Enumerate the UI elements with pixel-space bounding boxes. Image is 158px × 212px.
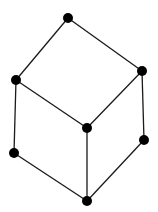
edge-top-left-upper: [16, 18, 68, 80]
hasse-diagram: [0, 0, 158, 212]
node-left-upper: [11, 75, 21, 85]
edge-right-lower-bottom: [87, 140, 144, 201]
node-center: [82, 123, 92, 133]
node-bottom: [82, 196, 92, 206]
edge-left-upper-center: [16, 80, 87, 128]
nodes-group: [9, 13, 149, 206]
node-right-lower: [139, 135, 149, 145]
node-right-upper: [137, 66, 147, 76]
node-left-lower: [9, 148, 19, 158]
edge-left-upper-left-lower: [14, 80, 16, 153]
edge-top-right-upper: [68, 18, 142, 71]
edges-group: [14, 18, 144, 201]
edge-right-upper-right-lower: [142, 71, 144, 140]
edge-right-upper-center: [87, 71, 142, 128]
node-top: [63, 13, 73, 23]
edge-left-lower-bottom: [14, 153, 87, 201]
